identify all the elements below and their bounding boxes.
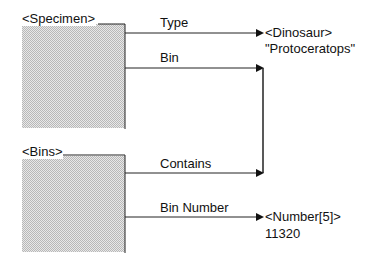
bin-number-arrowhead [256,213,264,221]
number-value-label: 11320 [265,227,300,241]
dinosaur-value-label: "Protoceratops" [265,42,355,56]
specimen-entity-label: <Specimen> [22,12,96,26]
type-arrowhead [256,29,264,37]
bins-entity-label: <Bins> [22,145,63,159]
bins-box [22,156,125,252]
bin-relation-label: Bin [160,51,179,65]
dinosaur-type-label: <Dinosaur> [265,26,332,40]
bin-number-relation-label: Bin Number [160,201,229,215]
contains-relation-label: Contains [160,157,211,171]
specimen-box [22,24,125,128]
number-type-label: <Number[5]> [265,210,341,224]
type-relation-label: Type [160,16,188,30]
